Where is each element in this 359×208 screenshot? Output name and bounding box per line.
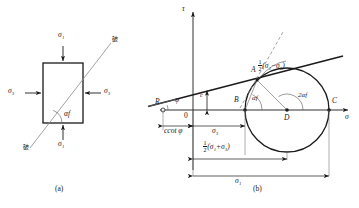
stress-element-rect: [43, 63, 83, 123]
label-ccot-phi: ccot φ: [164, 127, 183, 135]
label-phi-angle: φ: [175, 96, 179, 104]
center-expression-body: (σ₁+σ₃): [207, 142, 230, 151]
mohr-coulomb-figure: σ₁ σ₁ σ₃ σ₃ αf 破 破 (a) τ σ 0 R A B C D φ…: [0, 0, 359, 208]
label-tau-axis: τ: [182, 5, 185, 13]
point-D-marker: [285, 108, 289, 112]
phi-angle-arc: [167, 105, 168, 110]
label-sigma1-bottom: σ₁: [58, 140, 64, 148]
failure-plane-line: [30, 43, 111, 148]
envelope-extension-left: [148, 99, 176, 106]
figure-vector-layer: [0, 0, 359, 208]
label-point-A: A: [251, 66, 256, 74]
label-alpha-f-a: αf: [64, 110, 70, 118]
caption-panel-b: (b): [253, 184, 262, 193]
label-point-B: B: [234, 96, 239, 104]
panel-b-group: [148, 12, 348, 176]
label-sigma3-right: σ₃: [104, 87, 110, 95]
caption-panel-a: (a): [55, 184, 63, 193]
label-circle-radius-expression: 1 2 (σ₁−σ₃): [258, 59, 285, 73]
label-failure-plane-bottom: 破: [23, 144, 29, 150]
label-point-R: R: [155, 98, 160, 106]
label-two-alpha-f: 2αf: [298, 92, 307, 99]
label-origin: 0: [184, 112, 188, 120]
label-sigma1-b: σ₁: [235, 177, 241, 185]
panel-a-group: [25, 43, 111, 148]
label-point-D: D: [284, 114, 289, 122]
label-alpha-f-b: αf: [252, 95, 258, 102]
point-A-marker: [256, 79, 259, 82]
radius-expression-body: (σ₁−σ₃): [262, 61, 285, 70]
label-circle-center-expression: 1 2 (σ₁+σ₃): [203, 140, 230, 154]
label-sigma3-left: σ₃: [8, 87, 14, 95]
label-point-C: C: [332, 97, 337, 105]
label-failure-plane-top: 破: [112, 36, 118, 42]
label-sigma1-top: σ₁: [58, 31, 64, 39]
label-sigma-axis: σ: [345, 113, 349, 121]
label-cohesion-c: c: [200, 92, 203, 99]
label-sigma3-b: σ₃: [212, 127, 218, 135]
